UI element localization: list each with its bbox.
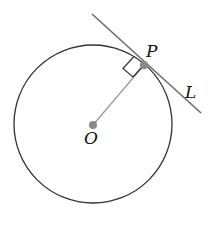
tangent-diagram: P L O [0, 0, 214, 227]
label-O: O [84, 128, 98, 148]
label-L: L [184, 82, 196, 102]
point-P [140, 61, 148, 69]
label-P: P [145, 41, 158, 61]
